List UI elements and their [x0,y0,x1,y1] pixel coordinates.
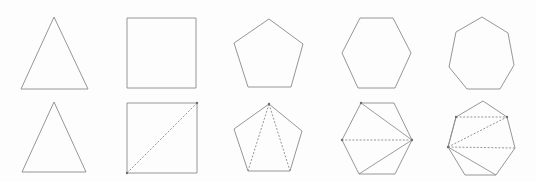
pentagon-plain [234,19,303,87]
square-triangulated-vertex-marker-1 [196,102,198,104]
hexagon-triangulated-vertex-marker-2 [360,102,362,104]
heptagon-triangulated-diagonal-1 [448,117,456,147]
square-triangulated-diagonal-1 [127,103,197,173]
figure-canvas [0,0,536,181]
hexagon-triangulated-diagonal-3 [359,140,412,174]
heptagon-triangulated-vertex-marker-1 [447,146,449,148]
hexagon-triangulated-diagonal-1 [361,103,412,140]
pentagon-triangulated-diagonal-1 [269,104,290,171]
heptagon-triangulated-vertex-marker-2 [506,116,508,118]
heptagon-triangulated-outline [448,101,515,175]
pentagon-triangulated-diagonal-2 [248,104,269,171]
hexagon-plain-outline [342,18,411,88]
square-triangulated [126,102,198,174]
hexagon-plain [342,18,411,88]
hexagon-triangulated [341,102,413,174]
heptagon-triangulated-vertex-marker-3 [455,116,457,118]
pentagon-plain-outline [234,19,303,87]
pentagon-triangulated-vertex-marker-1 [268,103,270,105]
shape-layer [21,17,515,175]
hexagon-triangulated-vertex-marker-3 [341,139,343,141]
heptagon-plain-outline [449,17,514,89]
square-plain [127,18,196,88]
pentagon-triangulated-outline [234,104,302,171]
heptagon-plain [449,17,514,89]
pentagon-triangulated [234,103,302,171]
triangle-triangulated-outline [22,102,86,172]
square-triangulated-vertex-marker-2 [126,172,128,174]
triangle-plain [21,17,88,89]
heptagon-triangulated-diagonal-3 [448,117,507,147]
hexagon-triangulated-outline [342,103,412,174]
heptagon-triangulated-diagonal-5 [448,147,496,175]
hexagon-triangulated-vertex-marker-1 [411,139,413,141]
heptagon-triangulated-diagonal-4 [448,147,515,148]
heptagon-triangulated [447,101,515,175]
square-plain-outline [127,18,196,88]
polygon-triangulation-figure [0,0,536,181]
triangle-triangulated [22,102,86,172]
triangle-plain-outline [21,17,88,89]
